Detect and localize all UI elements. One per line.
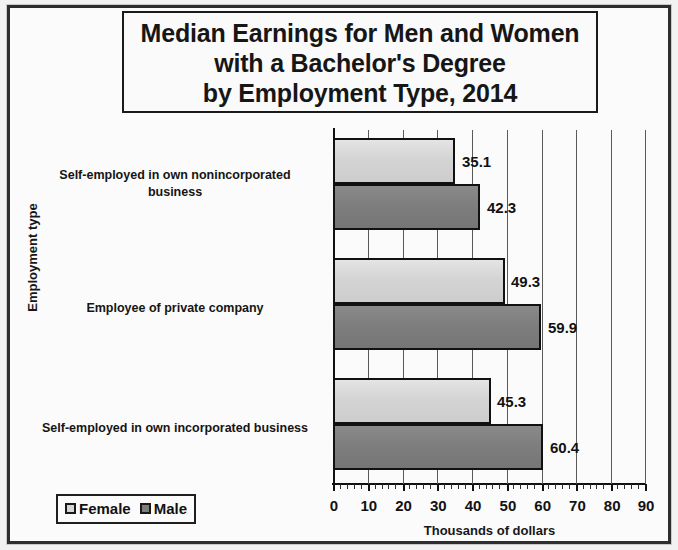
tick-label-50: 50 — [500, 497, 517, 514]
category-label-incorporated: Self-employed in own incorporated busine… — [25, 420, 325, 437]
bar-value-male-nonincorporated: 42.3 — [487, 199, 516, 216]
tick-minor-14 — [382, 484, 383, 489]
bar-male-nonincorporated — [333, 184, 480, 230]
tick-minor-2 — [340, 484, 341, 489]
gridline-70 — [576, 130, 577, 484]
tick-major-60 — [542, 484, 544, 491]
tick-minor-86 — [631, 484, 632, 489]
tick-minor-24 — [416, 484, 417, 489]
tick-minor-18 — [395, 484, 396, 489]
title-line-1: Median Earnings for Men and Women — [141, 18, 580, 48]
tick-label-70: 70 — [569, 497, 586, 514]
legend-label-female: Female — [79, 500, 131, 517]
tick-label-90: 90 — [638, 497, 655, 514]
tick-major-20 — [403, 484, 405, 491]
tick-minor-82 — [617, 484, 618, 489]
tick-major-50 — [507, 484, 509, 491]
title-line-3: by Employment Type, 2014 — [203, 78, 517, 108]
gridline-90 — [645, 130, 646, 484]
tick-minor-88 — [638, 484, 639, 489]
tick-minor-44 — [486, 484, 487, 489]
tick-minor-72 — [583, 484, 584, 489]
category-label-nonincorporated-line2: business — [25, 184, 325, 201]
tick-minor-74 — [590, 484, 591, 489]
tick-minor-4 — [347, 484, 348, 489]
tick-label-20: 20 — [395, 497, 412, 514]
tick-minor-76 — [596, 484, 597, 489]
chart-title: Median Earnings for Men and Women with a… — [122, 11, 598, 113]
legend-swatch-male-icon — [140, 503, 151, 514]
tick-label-60: 60 — [534, 497, 551, 514]
chart-legend: Female Male — [56, 494, 196, 524]
bar-male-incorporated — [333, 424, 543, 470]
bar-value-male-private-company: 59.9 — [548, 319, 577, 336]
tick-major-80 — [611, 484, 613, 491]
category-label-private-company-line1: Employee of private company — [25, 300, 325, 317]
bar-male-private-company — [333, 304, 541, 350]
tick-minor-8 — [361, 484, 362, 489]
plot-area: 0 10 20 30 40 50 60 70 80 90 35.1 42.3 4… — [333, 130, 646, 484]
tick-minor-66 — [562, 484, 563, 489]
title-line-2: with a Bachelor's Degree — [214, 48, 506, 78]
tick-major-90 — [645, 484, 647, 491]
tick-minor-26 — [423, 484, 424, 489]
legend-item-female: Female — [65, 500, 131, 517]
tick-minor-52 — [513, 484, 514, 489]
tick-major-0 — [333, 484, 335, 491]
tick-minor-84 — [624, 484, 625, 489]
tick-minor-6 — [354, 484, 355, 489]
bar-value-female-incorporated: 45.3 — [497, 393, 526, 410]
tick-minor-32 — [444, 484, 445, 489]
tick-minor-54 — [520, 484, 521, 489]
legend-label-male: Male — [154, 500, 187, 517]
tick-minor-28 — [430, 484, 431, 489]
tick-minor-36 — [458, 484, 459, 489]
tick-major-30 — [437, 484, 439, 491]
tick-minor-48 — [499, 484, 500, 489]
tick-minor-56 — [527, 484, 528, 489]
x-axis-title: Thousands of dollars — [333, 523, 646, 538]
category-label-private-company: Employee of private company — [25, 300, 325, 317]
legend-swatch-female-icon — [65, 503, 76, 514]
legend-item-male: Male — [140, 500, 187, 517]
bar-value-female-nonincorporated: 35.1 — [462, 153, 491, 170]
tick-minor-68 — [569, 484, 570, 489]
tick-label-30: 30 — [430, 497, 447, 514]
bar-female-private-company — [333, 258, 505, 304]
tick-major-70 — [576, 484, 578, 491]
category-label-incorporated-line1: Self-employed in own incorporated busine… — [25, 420, 325, 437]
tick-minor-62 — [548, 484, 549, 489]
category-label-nonincorporated-line1: Self-employed in own nonincorporated — [25, 167, 325, 184]
tick-label-80: 80 — [604, 497, 621, 514]
bar-value-male-incorporated: 60.4 — [550, 439, 579, 456]
tick-label-40: 40 — [465, 497, 482, 514]
tick-minor-64 — [555, 484, 556, 489]
tick-label-0: 0 — [330, 497, 338, 514]
tick-minor-34 — [451, 484, 452, 489]
tick-label-10: 10 — [360, 497, 377, 514]
category-label-nonincorporated: Self-employed in own nonincorporated bus… — [25, 167, 325, 201]
tick-minor-42 — [479, 484, 480, 489]
bar-female-incorporated — [333, 378, 491, 424]
tick-minor-16 — [388, 484, 389, 489]
chart-container: Median Earnings for Men and Women with a… — [0, 0, 678, 550]
tick-minor-46 — [492, 484, 493, 489]
tick-minor-78 — [603, 484, 604, 489]
tick-minor-58 — [534, 484, 535, 489]
bar-value-female-private-company: 49.3 — [511, 273, 540, 290]
bar-female-nonincorporated — [333, 138, 455, 184]
tick-minor-12 — [375, 484, 376, 489]
tick-minor-22 — [409, 484, 410, 489]
x-axis-line — [332, 483, 646, 485]
tick-major-40 — [472, 484, 474, 491]
tick-minor-38 — [465, 484, 466, 489]
tick-major-10 — [368, 484, 370, 491]
gridline-80 — [611, 130, 612, 484]
